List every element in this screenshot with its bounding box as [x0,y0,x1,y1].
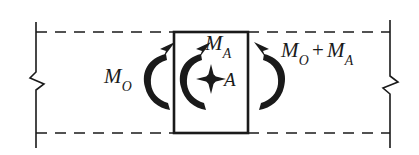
label-moment-sum-sub2: A [345,53,353,68]
plus-operator: + [309,38,328,62]
break-line-right [383,20,398,148]
label-moment-sum-sub1: O [299,53,309,68]
break-line-left [30,22,44,148]
torque-arrow-counterclockwise-left [144,42,175,110]
label-moment-ma-subscript: A [223,46,231,61]
torsion-diagram: MO MA MO+MA A [0,0,419,155]
label-moment-sum: MO+MA [281,40,353,65]
label-moment-ma: MA [205,33,231,58]
diagram-canvas [0,0,419,155]
label-moment-mo: MO [104,66,132,91]
label-point-a: A [224,70,236,89]
label-moment-mo-subscript: O [122,79,132,94]
